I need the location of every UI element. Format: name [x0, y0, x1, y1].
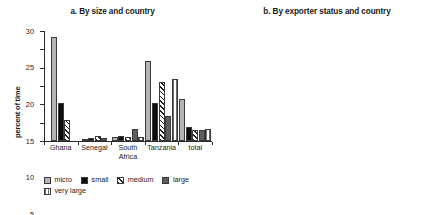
y-tick-label: 25 — [26, 67, 34, 68]
legend-label: large — [173, 176, 189, 184]
bar — [152, 103, 158, 142]
legend-item: large — [162, 176, 188, 184]
x-tick — [212, 142, 213, 145]
bar-group — [111, 31, 145, 141]
panel-a-legend: microsmallmediumlargevery large — [44, 176, 234, 198]
bar-group — [78, 31, 112, 141]
x-tick-label: South Africa — [111, 144, 145, 161]
bar — [159, 82, 165, 141]
y-tick-label: 30 — [26, 31, 34, 32]
bar-group — [178, 31, 212, 141]
bar — [101, 138, 107, 141]
legend-swatch-icon — [117, 177, 124, 184]
bar — [118, 136, 124, 141]
legend-row: very large — [44, 187, 234, 195]
bar — [205, 129, 211, 141]
bar — [51, 37, 57, 142]
bar — [165, 116, 171, 141]
legend-swatch-icon — [162, 177, 169, 184]
y-tick-label: 5 — [30, 214, 34, 215]
bar — [58, 103, 64, 141]
panel-a-y-axis-label: percent of time — [13, 48, 22, 138]
legend-label: medium — [128, 176, 154, 184]
bar — [95, 136, 101, 142]
legend-row: microsmallmediumlarge — [44, 176, 234, 184]
figure: a. By size and country percent of time 0… — [0, 0, 429, 215]
x-tick-label: Tanzania — [145, 144, 179, 153]
bar — [132, 129, 138, 141]
legend-item: very large — [44, 187, 86, 195]
x-tick-label: Senegal — [78, 144, 112, 153]
bar — [186, 127, 192, 141]
legend-swatch-icon — [44, 177, 51, 184]
bar — [192, 130, 198, 141]
panel-a-plot-area: 051015202530 — [44, 31, 212, 142]
panel-a-x-axis — [44, 141, 212, 142]
y-tick-label: 20 — [26, 104, 34, 105]
bar — [64, 120, 70, 141]
bar-group — [44, 31, 78, 141]
y-tick-label: 10 — [26, 177, 34, 178]
legend-swatch-icon — [81, 177, 88, 184]
bar — [199, 130, 205, 141]
bar — [88, 138, 94, 141]
x-tick-label: Ghana — [44, 144, 78, 153]
panel-a-title: a. By size and country — [0, 7, 225, 17]
bar — [138, 137, 144, 141]
legend-label: very large — [55, 187, 87, 195]
legend-item: small — [81, 176, 108, 184]
bar — [172, 79, 178, 141]
bar — [179, 99, 185, 141]
legend-item: medium — [117, 176, 153, 184]
chart-panel-a: a. By size and country percent of time 0… — [0, 0, 225, 215]
bar-group — [145, 31, 179, 141]
y-tick-label: 15 — [26, 141, 34, 142]
bar — [145, 61, 151, 141]
bar — [112, 137, 118, 141]
legend-swatch-icon — [44, 188, 51, 195]
bar — [82, 139, 88, 141]
legend-item: micro — [44, 176, 72, 184]
panel-b-title: b. By exporter status and country — [225, 7, 429, 17]
x-tick-label: total — [178, 144, 212, 153]
legend-label: small — [92, 176, 109, 184]
legend-label: micro — [55, 176, 73, 184]
chart-panel-b: b. By exporter status and country percen… — [225, 0, 429, 215]
bar — [125, 137, 131, 141]
